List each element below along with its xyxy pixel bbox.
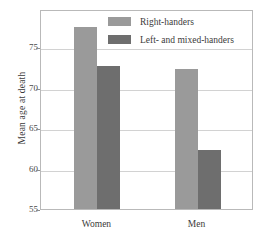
x-axis-label-men: Men	[157, 219, 237, 229]
legend: Right-handers Left- and mixed-handers	[108, 14, 248, 50]
x-axis-label-women: Women	[56, 219, 136, 229]
gridline	[41, 90, 252, 91]
legend-item: Right-handers	[108, 14, 248, 29]
y-axis-tickmark	[36, 210, 40, 211]
legend-swatch-right-handers	[108, 17, 131, 26]
bar-chart: Mean age at death 5560657075 Right-hande…	[0, 0, 266, 242]
bar-women-right-handers	[74, 27, 97, 209]
gridline	[41, 130, 252, 131]
bar-women-left-and-mixed-handers	[97, 66, 120, 209]
bar-men-left-and-mixed-handers	[198, 150, 221, 209]
legend-label-left-and-mixed-handers: Left- and mixed-handers	[140, 35, 234, 45]
bar-men-right-handers	[175, 69, 198, 209]
legend-swatch-left-and-mixed-handers	[108, 35, 131, 44]
legend-item: Left- and mixed-handers	[108, 32, 248, 47]
legend-label-right-handers: Right-handers	[140, 17, 194, 27]
